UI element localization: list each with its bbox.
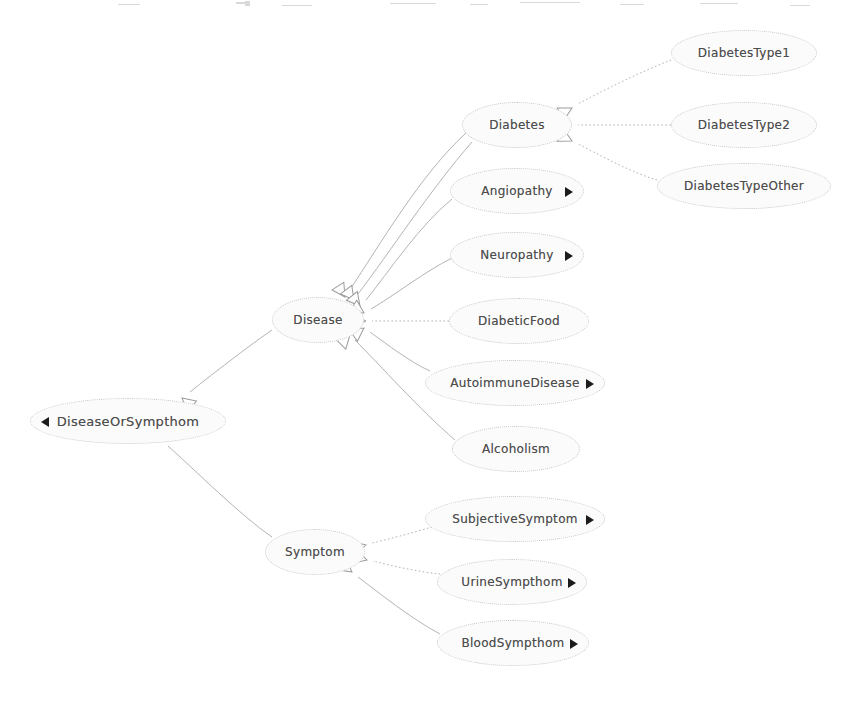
class-node-autoimmuneDisease[interactable]: AutoimmuneDisease [425, 360, 605, 406]
class-node-subjectiveSymptom[interactable]: SubjectiveSymptom [425, 496, 605, 542]
edge-angiopathy-to-disease [366, 199, 452, 300]
class-node-label: DiabeticFood [478, 315, 560, 327]
class-node-label: AutoimmuneDisease [450, 377, 579, 389]
class-node-diseaseOrSympthom[interactable]: DiseaseOrSympthom [30, 398, 226, 444]
class-node-angiopathy[interactable]: Angiopathy [450, 168, 584, 214]
edge-symptom-to-diseaseOrSympthom [168, 446, 272, 537]
expand-triangle-icon[interactable] [565, 251, 573, 261]
class-node-diabetes[interactable]: Diabetes [462, 102, 572, 148]
edge-neuropathy-to-disease [371, 258, 452, 309]
class-node-symptom[interactable]: Symptom [265, 529, 365, 575]
class-node-bloodSympthom[interactable]: BloodSympthom [437, 620, 589, 666]
class-node-label: Neuropathy [480, 249, 553, 261]
class-node-label: Disease [293, 314, 342, 326]
ontology-diagram-canvas: DiseaseOrSympthomDiseaseSymptomDiabetesD… [0, 0, 848, 702]
edge-diabetes-to-disease [349, 133, 466, 291]
edge-typeOther-to-diabetes [578, 144, 657, 180]
class-node-disease[interactable]: Disease [272, 297, 364, 343]
class-node-label: Diabetes [489, 119, 545, 131]
class-node-label: SubjectiveSymptom [452, 513, 578, 525]
edge-type1-to-diabetes [578, 60, 671, 104]
class-node-label: DiabetesType2 [698, 119, 790, 131]
class-node-diabetesType2[interactable]: DiabetesType2 [671, 102, 817, 148]
edge-disease-to-diseaseOrSympthom [190, 330, 272, 392]
collapse-triangle-icon[interactable] [41, 417, 49, 427]
class-node-label: DiabetesType1 [698, 47, 790, 59]
class-node-diabetesType1[interactable]: DiabetesType1 [671, 30, 817, 76]
class-node-diabeticFood[interactable]: DiabeticFood [449, 298, 589, 344]
class-node-label: BloodSympthom [461, 637, 564, 649]
expand-triangle-icon[interactable] [570, 639, 578, 649]
edge-urine-to-symptom [373, 561, 440, 574]
expand-triangle-icon[interactable] [565, 187, 573, 197]
class-node-neuropathy[interactable]: Neuropathy [450, 232, 584, 278]
expand-triangle-icon[interactable] [586, 379, 594, 389]
class-node-label: Angiopathy [481, 185, 553, 197]
expand-triangle-icon[interactable] [568, 578, 576, 588]
class-node-label: DiseaseOrSympthom [57, 415, 200, 428]
class-node-diabetesTypeOther[interactable]: DiabetesTypeOther [657, 163, 831, 209]
edge-blood-to-symptom [358, 577, 440, 634]
class-node-urineSympthom[interactable]: UrineSympthom [437, 559, 587, 605]
edge-diabetes2-to-disease [358, 142, 472, 294]
class-node-label: Symptom [285, 546, 345, 558]
class-node-label: DiabetesTypeOther [684, 180, 804, 192]
edge-subjective-to-symptom [372, 527, 432, 543]
class-node-label: Alcoholism [482, 443, 550, 455]
class-node-alcoholism[interactable]: Alcoholism [452, 426, 580, 472]
expand-triangle-icon[interactable] [586, 515, 594, 525]
class-node-label: UrineSympthom [461, 576, 562, 588]
